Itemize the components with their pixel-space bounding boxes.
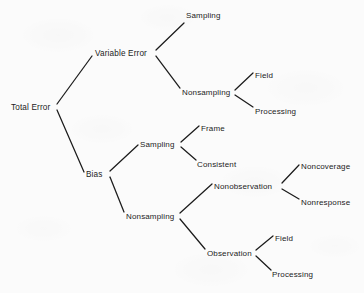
edge-bias-nonsampling (110, 177, 124, 212)
node-label-bias-s-frame: Frame (201, 124, 225, 133)
node-label-var-sampling: Sampling (186, 11, 221, 20)
edge-ns-field (235, 73, 253, 90)
node-label-total-error: Total Error (11, 103, 50, 112)
edge-nonobs-nonresponse (282, 189, 299, 199)
node-label-variable-error: Variable Error (95, 49, 147, 58)
node-label-bias: Bias (86, 170, 103, 179)
edge-sampling-consistent (181, 147, 196, 160)
edge-obs-field (256, 236, 273, 250)
edge-total-variable (57, 56, 92, 104)
node-label-obs-field: Field (275, 234, 293, 243)
edge-variable-nonsampling (156, 56, 180, 88)
edge-total-bias (57, 110, 84, 172)
error-classification-tree-diagram: Total ErrorVariable ErrorSamplingNonsamp… (0, 0, 364, 293)
edge-bns-observation (180, 219, 205, 249)
edge-sampling-frame (181, 126, 199, 142)
node-label-var-ns-field: Field (255, 71, 273, 80)
edge-bias-sampling (110, 145, 138, 171)
tree-edges-layer (0, 0, 364, 293)
edge-nonobs-noncoverage (282, 165, 299, 183)
edge-ns-processing (235, 95, 253, 107)
node-label-noncoverage: Noncoverage (301, 162, 350, 171)
node-label-bias-sampling: Sampling (140, 140, 175, 149)
node-label-obs-processing: Processing (272, 270, 313, 279)
edge-obs-processing (256, 256, 271, 270)
edge-bns-nonobservation (180, 184, 212, 213)
node-label-var-ns-processing: Processing (255, 107, 296, 116)
node-label-nonresponse: Nonresponse (301, 198, 350, 207)
node-label-bias-nonsampling: Nonsampling (126, 212, 174, 221)
node-label-observation: Observation (207, 249, 252, 258)
edge-variable-sampling (156, 23, 184, 50)
node-label-var-nonsampling: Nonsampling (182, 88, 230, 97)
node-label-bias-s-consistent: Consistent (197, 160, 236, 169)
node-label-nonobservation: Nonobservation (214, 182, 272, 191)
